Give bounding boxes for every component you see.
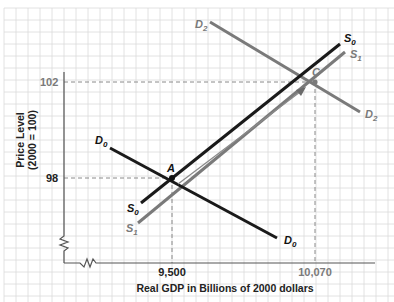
y-tick-98: 98 xyxy=(46,172,58,184)
point-c-label: C xyxy=(312,66,321,78)
x-tick-10070: 10,070 xyxy=(298,266,332,278)
point-a-label: A xyxy=(166,162,175,174)
point-c-marker xyxy=(312,79,317,84)
curve-d2 xyxy=(210,22,360,112)
label-s0-top: S0 xyxy=(344,32,356,47)
y-axis xyxy=(60,72,68,263)
x-axis-title: Real GDP in Billions of 2000 dollars xyxy=(136,282,313,294)
x-tick-9500: 9,500 xyxy=(158,266,186,278)
svg-text:(2000 = 100): (2000 = 100) xyxy=(26,110,38,170)
y-tick-102: 102 xyxy=(40,76,58,88)
y-axis-title: Price Level (2000 = 100) xyxy=(14,110,38,170)
point-a-marker xyxy=(169,175,175,181)
svg-text:Price Level: Price Level xyxy=(14,112,26,168)
label-d0-top: D0 xyxy=(95,134,108,149)
shift-arrow xyxy=(178,87,306,184)
label-s0-bottom: S0 xyxy=(127,202,139,217)
chart-figure: A C D0 D0 D2 D2 S0 S0 S1 S1 102 98 9,500… xyxy=(0,0,394,302)
